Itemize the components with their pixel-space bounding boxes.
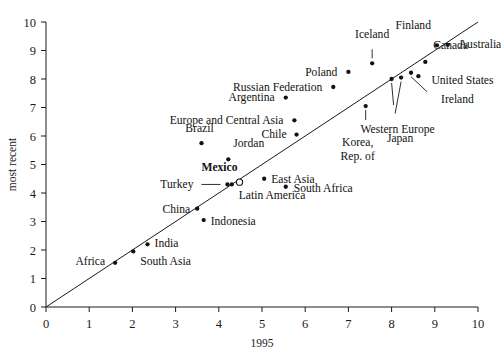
point-label-line: Australia <box>459 38 502 51</box>
data-point-marker[interactable] <box>364 104 368 108</box>
y-tick-label: 5 <box>30 158 36 172</box>
y-tick-label: 2 <box>30 244 36 258</box>
point-label-layer: AfricaSouth AsiaIndiaIndonesiaChinaTurke… <box>76 19 502 268</box>
data-point-marker[interactable] <box>416 74 420 78</box>
y-tick-label: 7 <box>30 101 36 115</box>
data-point-marker[interactable] <box>131 249 135 253</box>
y-tick-label: 3 <box>30 215 36 229</box>
chart-canvas: 012345678910012345678910 AfricaSouth Asi… <box>0 0 503 349</box>
point-label-line: Russian Federation <box>233 81 322 94</box>
identity-reference-line <box>46 22 478 307</box>
point-label-line: China <box>162 203 190 216</box>
point-label: Chile <box>261 128 286 141</box>
data-point-marker[interactable] <box>409 71 413 75</box>
point-label: Russian Federation <box>233 81 322 94</box>
point-label: Poland <box>305 66 337 79</box>
point-label-line: Japan <box>387 132 414 145</box>
point-label: South Africa <box>294 182 353 195</box>
y-tick-label: 4 <box>30 187 37 201</box>
y-tick-label: 1 <box>30 272 36 286</box>
point-label: Europe and Central Asia <box>170 114 284 127</box>
data-point-marker[interactable] <box>225 182 229 186</box>
point-label-line: Turkey <box>160 178 193 191</box>
data-point-marker[interactable] <box>262 177 266 181</box>
data-point-layer <box>113 43 450 265</box>
point-label-line: Rep. of <box>341 150 375 163</box>
point-label: South Asia <box>140 255 191 268</box>
point-label-line: Africa <box>76 255 106 268</box>
point-label-line: Europe and Central Asia <box>170 114 284 127</box>
reference-line-layer <box>46 22 478 307</box>
data-point-marker[interactable] <box>202 218 206 222</box>
data-point-marker[interactable] <box>113 261 117 265</box>
data-point-marker[interactable] <box>399 75 403 79</box>
x-tick-label: 3 <box>172 317 178 331</box>
point-label: Indonesia <box>211 215 256 228</box>
x-axis-title: 1995 <box>251 337 274 349</box>
point-label: Japan <box>387 132 414 145</box>
point-label-line: Jordan <box>233 137 264 150</box>
point-label-line: Ireland <box>441 93 474 106</box>
data-point-marker[interactable] <box>195 207 199 211</box>
data-point-marker[interactable] <box>284 95 288 99</box>
data-point-marker[interactable] <box>230 182 234 186</box>
y-tick-label: 10 <box>24 16 37 30</box>
x-tick-label: 2 <box>129 317 135 331</box>
label-leader-line <box>395 82 401 114</box>
point-label: Finland <box>396 19 432 32</box>
point-label-line: South Asia <box>140 255 191 268</box>
point-label: United States <box>431 74 494 87</box>
y-tick-label: 0 <box>30 301 36 315</box>
point-label: Korea,Rep. of <box>341 136 375 163</box>
point-label-line: Finland <box>396 19 432 32</box>
x-tick-label: 9 <box>432 317 438 331</box>
data-point-marker[interactable] <box>331 85 335 89</box>
point-label-line: Indonesia <box>211 215 256 228</box>
point-label-line: United States <box>431 74 494 87</box>
x-tick-label: 1 <box>86 317 92 331</box>
point-label-line: Korea, <box>342 136 373 149</box>
x-tick-label: 5 <box>259 317 265 331</box>
point-label: India <box>155 237 179 250</box>
point-label: Australia <box>459 38 502 51</box>
y-tick-label: 8 <box>30 73 36 87</box>
point-label: Turkey <box>160 178 193 191</box>
y-tick-label: 6 <box>30 130 36 144</box>
y-axis-title: most recent <box>6 137 18 191</box>
point-label-line: Iceland <box>355 28 389 41</box>
point-label-line: Chile <box>261 128 286 141</box>
data-point-marker[interactable] <box>423 60 427 64</box>
point-label: Jordan <box>233 137 264 150</box>
data-point-marker[interactable] <box>199 141 203 145</box>
x-tick-label: 10 <box>472 317 485 331</box>
point-label-line: South Africa <box>294 182 353 195</box>
scatter-plot-figure: 012345678910012345678910 AfricaSouth Asi… <box>0 0 503 349</box>
x-tick-label: 6 <box>302 317 308 331</box>
data-point-marker[interactable] <box>145 242 149 246</box>
point-label-line: Poland <box>305 66 337 79</box>
point-label-line: Mexico <box>201 161 237 174</box>
x-tick-label: 7 <box>345 317 351 331</box>
point-label: Iceland <box>355 28 389 41</box>
data-point-marker[interactable] <box>370 61 374 65</box>
point-label: Africa <box>76 255 106 268</box>
x-tick-label: 8 <box>388 317 394 331</box>
data-point-marker[interactable] <box>236 179 242 185</box>
data-point-marker[interactable] <box>292 118 296 122</box>
point-label: Mexico <box>201 161 237 174</box>
data-point-marker[interactable] <box>346 70 350 74</box>
data-point-marker[interactable] <box>294 132 298 136</box>
point-label: China <box>162 203 190 216</box>
data-point-marker[interactable] <box>389 77 393 81</box>
axis-layer: 012345678910012345678910 <box>24 16 485 332</box>
y-tick-label: 9 <box>30 44 36 58</box>
label-leader-line <box>392 83 394 105</box>
point-label-line: India <box>155 237 179 250</box>
label-leader-line <box>411 77 427 92</box>
point-label: Ireland <box>441 93 474 106</box>
x-tick-label: 0 <box>43 317 49 331</box>
x-tick-label: 4 <box>216 317 223 331</box>
